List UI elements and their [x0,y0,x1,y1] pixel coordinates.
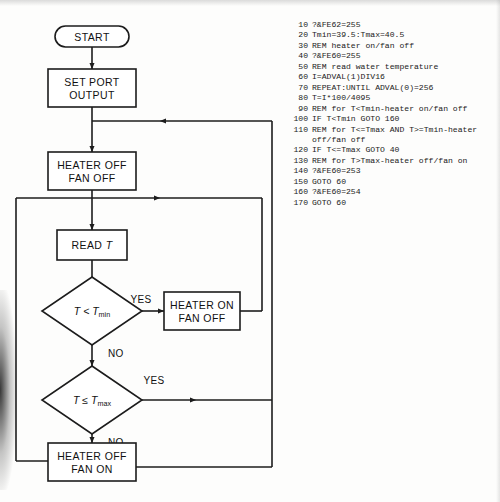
basic-program-listing: 10?&FE62=25520Tmin=39.5:Tmax=40.530REM h… [286,20,494,208]
code-line-source: GOTO 60 [308,198,346,207]
read-temperature-label: READ T [72,239,114,251]
heater-on-fan-off-label-line1: HEATER ON [170,299,234,311]
code-line-number: 10 [286,20,308,30]
code-line-source: REM for T<=Tmax AND T>=Tmin-heater [308,125,477,134]
code-line-number: 20 [286,30,308,40]
scanned-page: START SET PORT OUTPUT HEATER OFF FAN OFF… [0,0,500,502]
set-port-output-label-line2: OUTPUT [69,89,115,101]
code-line-number: 80 [286,93,308,103]
code-line-number: 90 [286,104,308,114]
code-line: 90REM for T<Tmin-heater on/fan off [286,104,494,114]
code-line-number: 70 [286,83,308,93]
decision2-yes-label: YES [143,375,164,386]
heater-off-fan-off-label-line2: FAN OFF [68,172,115,184]
heater-off-fan-on-label-line1: HEATER OFF [57,450,127,462]
code-line: off/fan off [286,135,494,145]
code-line-number: 170 [286,198,308,208]
code-line: 20Tmin=39.5:Tmax=40.5 [286,30,494,40]
code-line: 160?&FE60=254 [286,187,494,197]
code-line-source: REPEAT:UNTIL ADVAL(0)=256 [308,83,433,92]
code-line-number: 40 [286,51,308,61]
code-line-source: GOTO 60 [308,177,346,186]
code-line-number: 50 [286,62,308,72]
code-line: 120IF T<=Tmax GOTO 40 [286,145,494,155]
code-line: 50REM read water temperature [286,62,494,72]
code-line-number: 150 [286,177,308,187]
read-temperature-var: T [106,239,114,251]
decision2-subscript: max [97,399,111,408]
code-line-source: IF T<=Tmax GOTO 40 [308,145,399,154]
code-line-source: REM for T<Tmin-heater on/fan off [308,104,467,113]
code-line-number: 100 [286,114,308,124]
code-line: 10?&FE62=255 [286,20,494,30]
flowchart-diagram: START SET PORT OUTPUT HEATER OFF FAN OFF… [0,0,300,502]
code-line-source: REM read water temperature [308,62,438,71]
decision1-no-label: NO [108,348,124,359]
code-line-source: REM for T>Tmax-heater off/fan on [308,156,467,165]
code-line: 110REM for T<=Tmax AND T>=Tmin-heater [286,125,494,135]
code-line: 70REPEAT:UNTIL ADVAL(0)=256 [286,83,494,93]
code-line: 60I=ADVAL(1)DIV16 [286,72,494,82]
code-line-number: 130 [286,156,308,166]
heater-on-fan-off-label-line2: FAN OFF [178,312,225,324]
code-line-source: ?&FE60=254 [308,187,361,196]
code-line: 140?&FE60=253 [286,166,494,176]
read-temperature-prefix: READ [72,239,106,251]
heater-off-fan-on-label-line2: FAN ON [71,463,113,475]
code-line-number: 120 [286,145,308,155]
decision1-subscript: min [99,310,111,319]
code-line: 100IF T<Tmin GOTO 160 [286,114,494,124]
code-line: 40?&FE60=255 [286,51,494,61]
scan-shading-right [496,0,500,502]
code-line-number: 110 [286,125,308,135]
decision1-op: < [80,305,92,317]
code-line-source: T=I*100/4095 [308,93,370,102]
code-line-source: ?&FE60=255 [308,51,361,60]
code-line-source: IF T<Tmin GOTO 160 [308,114,399,123]
code-line-number: 30 [286,41,308,51]
heater-off-fan-off-label-line1: HEATER OFF [57,159,127,171]
set-port-output-label-line1: SET PORT [64,76,120,88]
code-line-source: ?&FE62=255 [308,20,361,29]
code-line-source: off/fan off [308,135,365,144]
code-line-number: 60 [286,72,308,82]
code-line: 130REM for T>Tmax-heater off/fan on [286,156,494,166]
code-line: 80T=I*100/4095 [286,93,494,103]
code-line: 150GOTO 60 [286,177,494,187]
code-line-number: 140 [286,166,308,176]
code-line-number: 160 [286,187,308,197]
code-line: 170GOTO 60 [286,198,494,208]
code-line-source: I=ADVAL(1)DIV16 [308,72,385,81]
decision1-yes-label: YES [130,294,151,305]
code-line-source: ?&FE60=253 [308,166,361,175]
code-line: 30REM heater on/fan off [286,41,494,51]
code-line-source: Tmin=39.5:Tmax=40.5 [308,30,404,39]
start-label: START [74,31,110,43]
decision2-op: ≤ [79,394,91,406]
code-line-source: REM heater on/fan off [308,41,414,50]
